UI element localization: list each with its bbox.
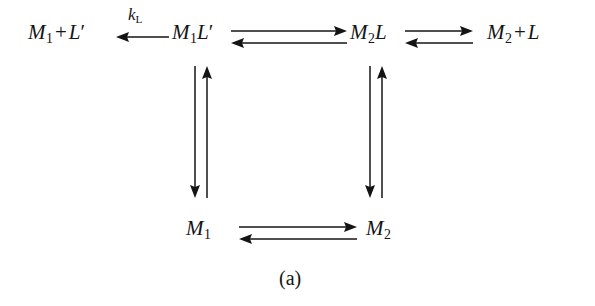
species-m1-bottom-sub: 1 bbox=[204, 227, 211, 242]
species-m1-plus-lprime: M1+L′ bbox=[28, 22, 85, 46]
species-m1lprime-sub: 1 bbox=[190, 31, 197, 46]
arrow-equilibrium-top-right bbox=[405, 26, 473, 50]
species-m2l-sub: 2 bbox=[368, 31, 375, 46]
rate-constant-subscript: L bbox=[136, 13, 143, 25]
species-m2-plus-l: M2+L bbox=[487, 22, 539, 46]
species-m2-bottom-base: M bbox=[366, 216, 384, 240]
arrow-equilibrium-bottom bbox=[239, 222, 357, 246]
species-m2-plus-l-base: M bbox=[487, 20, 505, 44]
rate-constant-kl-label: kL bbox=[128, 6, 142, 25]
arrow-equilibrium-left-vertical bbox=[190, 66, 214, 198]
species-m2l-base: M bbox=[350, 20, 368, 44]
arrow-equilibrium-right-vertical bbox=[365, 66, 389, 198]
species-m1-bottom-base: M bbox=[186, 216, 204, 240]
figure-caption: (a) bbox=[279, 268, 301, 288]
species-m2-plus-l-sub: 2 bbox=[505, 31, 512, 46]
rate-constant-symbol: k bbox=[128, 5, 136, 24]
plus-operator-right: + bbox=[512, 20, 528, 44]
species-m1lprime: M1L′ bbox=[172, 22, 213, 46]
arrow-equilibrium-top-middle bbox=[231, 26, 347, 50]
arrow-dissociation-left bbox=[116, 30, 170, 44]
species-m1lprime-base: M bbox=[172, 20, 190, 44]
species-m2-bottom: M2 bbox=[366, 218, 391, 242]
species-m1lprime-ligand: L bbox=[197, 20, 209, 44]
prime-mark-m1l: ′ bbox=[209, 20, 214, 44]
plus-operator-left: + bbox=[53, 20, 69, 44]
species-m2-bottom-sub: 2 bbox=[384, 227, 391, 242]
reaction-scheme-figure: M1+L′ M1L′ M2L M2+L kL bbox=[0, 0, 595, 306]
prime-mark-left: ′ bbox=[80, 20, 85, 44]
species-m1-plus-lprime-sub: 1 bbox=[46, 31, 53, 46]
species-m2l-ligand: L bbox=[375, 20, 387, 44]
species-m1-plus-lprime-base: M bbox=[28, 20, 46, 44]
species-m1-bottom: M1 bbox=[186, 218, 211, 242]
species-m2-plus-l-partner: L bbox=[528, 20, 540, 44]
species-m1-plus-lprime-partner: L bbox=[69, 20, 81, 44]
species-m2l: M2L bbox=[350, 22, 387, 46]
